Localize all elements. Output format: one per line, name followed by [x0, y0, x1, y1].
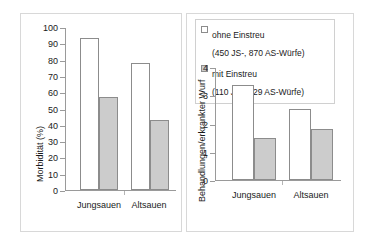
x-axis-line-right: [215, 180, 341, 181]
y-tick-label: 0: [203, 176, 208, 186]
x-axis-label-altsauen-right: Altsauen: [293, 190, 328, 200]
x-axis-label-altsauen-left: Altsauen: [131, 200, 166, 210]
y-axis-line-right: [215, 68, 216, 181]
plot-area-right: 0 1 2 3 4: [215, 68, 335, 181]
y-axis-line-left: [65, 28, 66, 191]
x-axis-group-separator-left: [124, 191, 125, 195]
y-tick-label: 2: [203, 120, 208, 130]
bar-behandlungen-altsauen-mit-einstreu: [311, 129, 333, 180]
y-tick-label: 100: [43, 23, 58, 33]
bar-morbiditaet-jungsauen-ohne-einstreu: [80, 38, 99, 190]
y-tick-label: 10: [48, 170, 58, 180]
y-tick-label: 80: [48, 56, 58, 66]
plot-area-left: 0 10 20 30 40 50 60 70 8: [65, 28, 170, 191]
chart-panel-behandlungen: ohne Einstreu (450 JS-, 870 AS-Würfe) mi…: [186, 13, 354, 232]
bar-morbiditaet-altsauen-mit-einstreu: [150, 120, 169, 190]
y-tick-label: 90: [48, 39, 58, 49]
white-square-swatch-icon: [201, 26, 208, 33]
x-axis-label-jungsauen-left: Jungsauen: [77, 200, 121, 210]
bar-behandlungen-altsauen-ohne-einstreu: [289, 109, 311, 180]
y-tick-label: 50: [48, 105, 58, 115]
figure-two-bar-charts: Morbidität (%) 0 10 20 30 40 50: [0, 0, 367, 245]
x-axis-group-separator-right: [282, 181, 283, 185]
y-tick-label: 0: [53, 186, 58, 196]
y-tick-label: 70: [48, 72, 58, 82]
y-tick-label: 60: [48, 88, 58, 98]
x-axis-label-jungsauen-right: Jungsauen: [232, 190, 276, 200]
bar-morbiditaet-jungsauen-mit-einstreu: [99, 97, 118, 190]
legend-label: ohne Einstreu: [212, 30, 264, 40]
chart-panel-morbiditaet: Morbidität (%) 0 10 20 30 40 50: [20, 13, 182, 232]
y-tick-label: 20: [48, 153, 58, 163]
y-tick-label: 3: [203, 91, 208, 101]
bar-behandlungen-jungsauen-mit-einstreu: [254, 138, 276, 180]
legend-detail: (450 JS-, 870 AS-Würfe): [212, 48, 305, 58]
y-tick-label: 1: [203, 148, 208, 158]
y-axis-title-left: Morbidität (%): [35, 126, 45, 182]
bar-morbiditaet-altsauen-ohne-einstreu: [131, 63, 150, 190]
bar-behandlungen-jungsauen-ohne-einstreu: [232, 85, 254, 180]
legend-entry-ohne-einstreu: ohne Einstreu (450 JS-, 870 AS-Würfe): [201, 24, 329, 60]
y-tick-label: 30: [48, 137, 58, 147]
y-tick-label: 4: [203, 63, 208, 73]
x-axis-line-left: [65, 190, 176, 191]
y-tick-label: 40: [48, 121, 58, 131]
